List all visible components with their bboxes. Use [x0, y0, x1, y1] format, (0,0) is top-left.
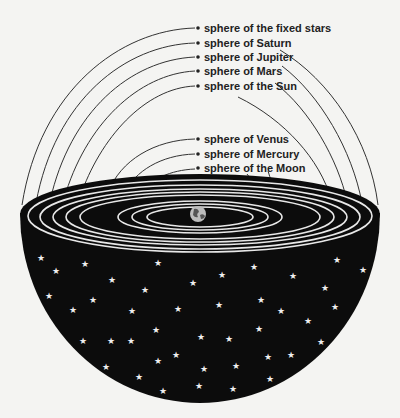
- svg-text:★: ★: [289, 271, 297, 281]
- svg-text:★: ★: [200, 364, 208, 374]
- svg-text:★: ★: [225, 334, 233, 344]
- svg-text:★: ★: [321, 283, 329, 293]
- label-mercury: sphere of Mercury: [204, 148, 300, 160]
- label-venus: sphere of Venus: [204, 133, 289, 145]
- svg-text:★: ★: [159, 386, 167, 396]
- svg-text:★: ★: [37, 253, 45, 263]
- svg-text:★: ★: [127, 336, 135, 346]
- svg-text:★: ★: [277, 306, 285, 316]
- svg-text:★: ★: [359, 265, 367, 275]
- svg-text:★: ★: [317, 337, 325, 347]
- svg-text:★: ★: [215, 300, 223, 310]
- svg-text:★: ★: [102, 362, 110, 372]
- svg-text:★: ★: [154, 356, 162, 366]
- svg-text:★: ★: [128, 306, 136, 316]
- svg-text:★: ★: [264, 352, 272, 362]
- svg-text:★: ★: [287, 350, 295, 360]
- celestial-spheres-diagram: ★★★ ★★★ ★★★ ★★★ ★★★ ★★★ ★★★ ★★★ ★★★ ★★★ …: [0, 0, 400, 418]
- svg-text:★: ★: [45, 291, 53, 301]
- label-sun: sphere of the Sun: [204, 80, 297, 92]
- svg-text:★: ★: [304, 316, 312, 326]
- label-mars: sphere of Mars: [204, 65, 282, 77]
- svg-text:★: ★: [197, 332, 205, 342]
- svg-text:★: ★: [135, 372, 143, 382]
- svg-text:★: ★: [255, 324, 263, 334]
- label-saturn: sphere of Saturn: [204, 37, 292, 49]
- svg-text:★: ★: [172, 350, 180, 360]
- svg-text:★: ★: [229, 384, 237, 394]
- svg-text:★: ★: [52, 266, 60, 276]
- svg-text:★: ★: [141, 285, 149, 295]
- svg-text:★: ★: [189, 278, 197, 288]
- label-fixed-stars: sphere of the fixed stars: [204, 22, 331, 34]
- svg-text:★: ★: [331, 302, 339, 312]
- svg-text:★: ★: [195, 381, 203, 391]
- svg-text:★: ★: [257, 295, 265, 305]
- svg-text:★: ★: [79, 336, 87, 346]
- svg-text:★: ★: [333, 255, 341, 265]
- svg-text:★: ★: [154, 258, 162, 268]
- svg-text:★: ★: [89, 295, 97, 305]
- svg-text:★: ★: [69, 305, 77, 315]
- label-moon: sphere of the Moon: [204, 162, 306, 174]
- leader-dots: [196, 26, 200, 170]
- svg-text:★: ★: [250, 262, 258, 272]
- label-jupiter: sphere of Jupiter: [204, 51, 294, 63]
- svg-text:★: ★: [232, 361, 240, 371]
- svg-text:★: ★: [152, 325, 160, 335]
- svg-text:★: ★: [218, 270, 226, 280]
- svg-text:★: ★: [108, 275, 116, 285]
- svg-text:★: ★: [107, 336, 115, 346]
- svg-text:★: ★: [174, 304, 182, 314]
- svg-text:★: ★: [81, 259, 89, 269]
- earth-icon: [190, 206, 206, 222]
- svg-text:★: ★: [266, 374, 274, 384]
